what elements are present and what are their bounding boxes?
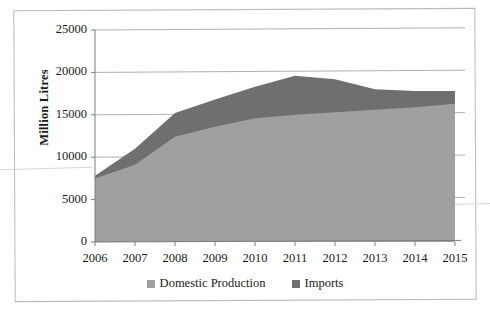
- y-tick-label: 20000: [33, 64, 87, 79]
- plot-area: Million Litres 0500010000150002000025000…: [0, 0, 490, 317]
- chart-legend: Domestic ProductionImports: [0, 276, 490, 291]
- y-tick-label: 0: [33, 234, 87, 249]
- y-tick-label: 10000: [33, 149, 87, 164]
- legend-label: Domestic Production: [160, 276, 266, 291]
- x-tick-label: 2015: [432, 251, 478, 266]
- gridline: [95, 28, 465, 30]
- gridline: [95, 70, 465, 72]
- y-tick-label: 25000: [33, 22, 87, 37]
- area-series-group: [95, 76, 455, 242]
- area-series-domestic-production: [95, 104, 455, 242]
- chart-figure: Million Litres 0500010000150002000025000…: [0, 0, 490, 317]
- legend-swatch-icon: [147, 280, 155, 288]
- legend-swatch-icon: [292, 280, 300, 288]
- legend-item[interactable]: Imports: [292, 276, 344, 291]
- legend-item[interactable]: Domestic Production: [147, 276, 266, 291]
- y-tick-label: 15000: [33, 107, 87, 122]
- y-tick-label: 5000: [33, 192, 87, 207]
- legend-label: Imports: [305, 276, 344, 291]
